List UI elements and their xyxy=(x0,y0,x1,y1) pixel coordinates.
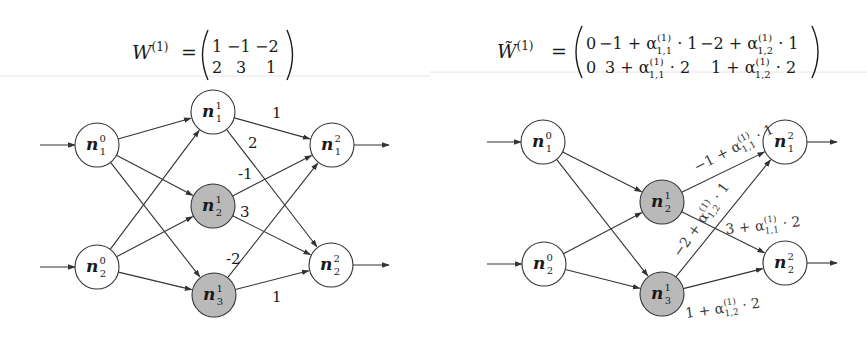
node-n2_0: n02 xyxy=(75,245,119,289)
edge-m1_0-to-m3_1 xyxy=(557,159,648,276)
figure: W(1) = 1 −1 −2 2 3 1 W̃(1) = 0−1 + α(1)1… xyxy=(0,0,867,339)
right-network-diagram: n01n02n12n13n21n22−1 + α(1)1,1 · 1−2 + α… xyxy=(487,119,837,324)
edge-weight-label: 1 xyxy=(272,104,282,122)
matrix-cell: −1 + α(1)1,1 · 1 xyxy=(599,32,697,56)
edge-m1_0-to-m2_1 xyxy=(563,152,642,192)
node-n1_0: n01 xyxy=(75,123,119,167)
edge-n2_0-to-n2_1 xyxy=(116,217,192,257)
matrix-cell: 0 xyxy=(586,34,596,53)
formula-lhs: W̃(1) xyxy=(497,39,534,62)
node-m1_0: n01 xyxy=(521,120,565,164)
edge-weight-label: 3 xyxy=(240,203,250,221)
node-n1_2: n21 xyxy=(310,123,354,167)
edge-weight-formula-label: 1 + α(1)1,2 · 2 xyxy=(684,293,762,324)
matrix-cell-r1c3: −2 xyxy=(255,37,279,56)
matrix-cell-r2c2: 3 xyxy=(236,58,246,77)
matrix-cell: −2 + α(1)1,2 · 1 xyxy=(700,32,798,56)
matrix-cell-r1c2: −1 xyxy=(227,37,251,56)
edge-n2_0-to-n3_1 xyxy=(118,272,191,290)
matrix-superscript: (1) xyxy=(152,40,169,54)
equals-sign: = xyxy=(181,41,197,63)
node-n3_1: n13 xyxy=(192,273,236,317)
node-n2_1: n12 xyxy=(191,184,235,228)
edge-n1_0-to-n1_1 xyxy=(118,118,191,139)
edge-n2_0-to-n1_1 xyxy=(110,130,199,249)
matrix-superscript: (1) xyxy=(517,39,534,53)
node-n1_1: n11 xyxy=(191,90,235,134)
matrix-cell-r1c1: 1 xyxy=(212,37,222,56)
node-n2_2: n22 xyxy=(309,243,353,287)
right-parenthesis xyxy=(287,30,293,80)
node-m2_1: n12 xyxy=(640,180,684,224)
right-parenthesis xyxy=(812,26,818,78)
equals-sign: = xyxy=(551,40,567,62)
matrix-cell: 3 + α(1)1,1 · 2 xyxy=(605,56,690,80)
left-network-diagram: n01n02n11n12n13n21n2212-13-21 xyxy=(40,90,389,317)
edge-weight-formula-label: 3 + α(1)1,1 · 2 xyxy=(724,211,801,240)
edge-weight-label: -2 xyxy=(226,250,241,268)
matrix-cell-r2c3: 1 xyxy=(266,58,276,77)
edge-n1_1-to-n2_2 xyxy=(226,129,317,246)
left-parenthesis xyxy=(576,26,582,78)
neural-network-figure: W(1) = 1 −1 −2 2 3 1 W̃(1) = 0−1 + α(1)1… xyxy=(0,0,867,339)
edge-m2_0-to-m3_1 xyxy=(565,269,639,288)
edge-m3_1-to-m2_2 xyxy=(683,269,762,289)
edge-weight-label: -1 xyxy=(238,165,253,183)
left-parenthesis xyxy=(203,30,209,80)
formula-lhs: W(1) xyxy=(132,40,169,63)
node-m2_0: n02 xyxy=(522,242,566,286)
edge-weight-label: 2 xyxy=(248,134,258,152)
matrix-cell: 0 xyxy=(586,58,596,77)
matrix-symbol: W̃ xyxy=(497,40,518,62)
node-m3_1: n13 xyxy=(640,272,684,316)
matrix-cell: 1 + α(1)1,2 · 2 xyxy=(711,56,796,80)
modified-matrix-cells: 0−1 + α(1)1,1 · 1−2 + α(1)1,2 · 103 + α(… xyxy=(586,32,798,80)
edge-weight-label: 1 xyxy=(272,288,282,306)
matrix-cell-r2c1: 2 xyxy=(212,58,222,77)
edge-n3_1-to-n2_2 xyxy=(235,271,308,290)
left-weight-matrix-formula: W(1) = 1 −1 −2 2 3 1 xyxy=(132,30,293,80)
matrix-symbol: W xyxy=(132,41,153,63)
node-m2_2: n22 xyxy=(763,241,807,285)
